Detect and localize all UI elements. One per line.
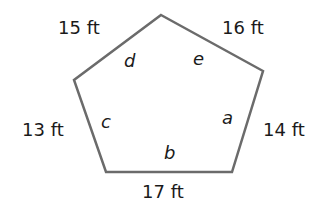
side-label-top-left: 15 ft [58, 19, 100, 37]
angle-label-d: d [124, 52, 135, 70]
angle-label-c: c [101, 113, 111, 131]
angle-label-a: a [222, 109, 233, 127]
angle-label-e: e [193, 50, 204, 68]
side-label-right: 14 ft [263, 121, 305, 139]
side-label-top-right: 16 ft [222, 19, 264, 37]
angle-label-b: b [164, 144, 175, 162]
side-label-bottom: 17 ft [142, 183, 184, 201]
side-label-left: 13 ft [22, 121, 64, 139]
